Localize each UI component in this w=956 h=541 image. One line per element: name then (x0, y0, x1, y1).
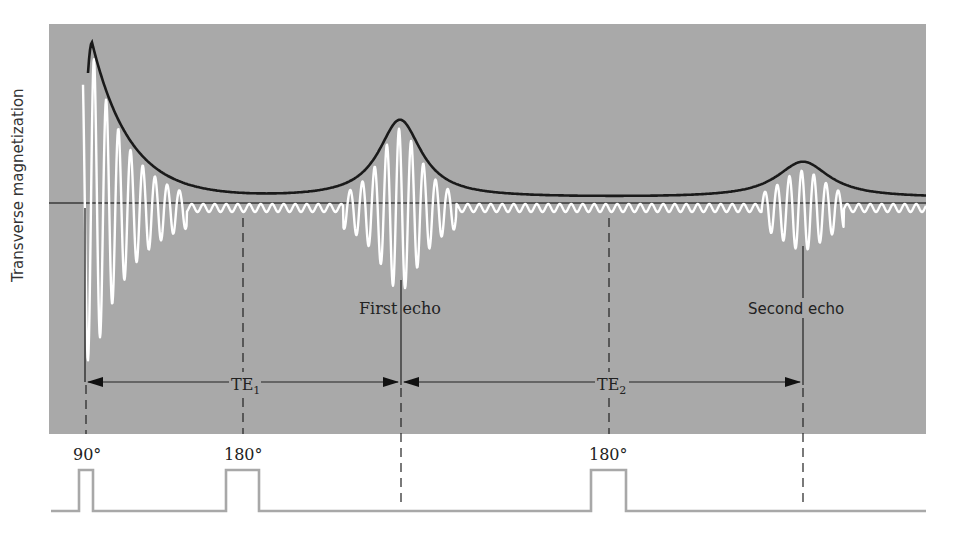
first-echo-label: First echo (359, 299, 441, 318)
pulse-180b-label: 180° (589, 445, 628, 464)
rf-pulse-sequence (51, 470, 926, 511)
pulse-180a-label: 180° (224, 445, 263, 464)
second-echo-label: Second echo (748, 300, 844, 318)
pulse-90-label: 90° (73, 445, 101, 464)
y-axis-label: Transverse magnetization (9, 88, 27, 282)
spin-echo-diagram: TE1 TE2 First echo Second echo 90° 180° … (0, 0, 956, 541)
